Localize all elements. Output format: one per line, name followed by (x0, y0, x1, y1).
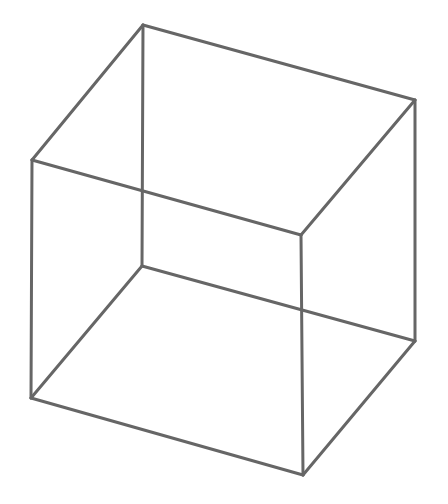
cube-edge-front-top-right-to-front-bottom-right (301, 235, 303, 475)
cube-edge-back-top-left-to-front-top-left (32, 25, 143, 160)
cube-edge-back-bottom-left-to-back-top-left (142, 25, 143, 266)
cube-edge-back-bottom-left-to-front-bottom-left (31, 266, 142, 398)
cube-edge-back-bottom-right-to-back-bottom-left (142, 266, 415, 341)
cube-edge-front-bottom-right-to-front-bottom-left (31, 398, 303, 475)
cube-edge-front-top-left-to-front-top-right (32, 160, 301, 235)
cube-edges (31, 25, 415, 475)
cube-edge-front-bottom-left-to-front-top-left (31, 160, 32, 398)
cube-edge-back-top-right-to-front-top-right (301, 100, 415, 235)
cube-diagram (0, 0, 448, 504)
cube-edge-back-bottom-right-to-front-bottom-right (303, 341, 415, 475)
cube-edge-back-top-left-to-back-top-right (143, 25, 415, 100)
